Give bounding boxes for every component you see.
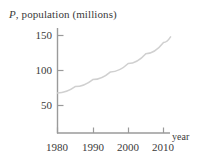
population-curve [58, 37, 171, 93]
population-growth-chart: P, population (millions) 150 100 50 1980… [0, 0, 199, 168]
y-tick-label-50: 50 [18, 99, 52, 111]
x-tick-label-1980: 1980 [37, 141, 77, 153]
x-tick-label-2010: 2010 [143, 141, 183, 153]
y-tick-label-100: 100 [18, 64, 52, 76]
x-tick-label-2000: 2000 [108, 141, 148, 153]
x-axis-label: year [172, 131, 189, 142]
x-tick-label-1990: 1990 [73, 141, 113, 153]
y-tick-label-150: 150 [18, 29, 52, 41]
